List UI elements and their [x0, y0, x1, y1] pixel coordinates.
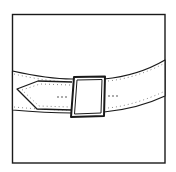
buckle: [71, 77, 105, 118]
belt-illustration: [0, 0, 176, 172]
buckle-inner: [75, 80, 103, 115]
